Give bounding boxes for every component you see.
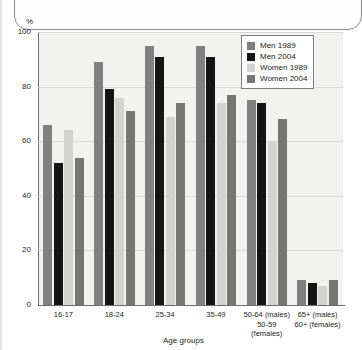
bar (176, 103, 185, 305)
bar (166, 117, 175, 305)
x-axis-line (38, 305, 345, 306)
legend-item: Women 1989 (247, 62, 307, 73)
legend-swatch-icon (247, 75, 255, 83)
legend-label: Men 2004 (260, 52, 296, 61)
legend-item: Men 2004 (247, 51, 307, 62)
bar (247, 100, 256, 305)
bar (75, 158, 84, 305)
y-tick-label: 80 (1, 82, 31, 91)
bar (329, 280, 338, 305)
bar (54, 163, 63, 305)
bar (308, 283, 317, 305)
bar (297, 280, 306, 305)
bar (278, 119, 287, 305)
bar (206, 57, 215, 305)
bar-group (196, 32, 237, 305)
legend-swatch-icon (247, 53, 255, 61)
bar (257, 103, 266, 305)
legend-label: Women 1989 (260, 63, 307, 72)
bar (145, 46, 154, 305)
bar-group (145, 32, 186, 305)
legend-item: Men 1989 (247, 40, 307, 51)
y-tick-label: 0 (1, 300, 31, 309)
bar (115, 98, 124, 305)
legend-swatch-icon (247, 42, 255, 50)
x-axis-title: Age groups (0, 336, 353, 345)
x-tick-label-line: 60+ (females) (286, 320, 350, 330)
y-tick-label: 40 (1, 191, 31, 200)
bar (217, 103, 226, 305)
y-tick-label: 100 (1, 27, 31, 36)
bar (64, 130, 73, 305)
bar (227, 95, 236, 305)
bar-group (43, 32, 84, 305)
y-axis-unit-label: % (26, 17, 33, 26)
x-tick-label-line: 65+ (males) (286, 310, 350, 320)
bar (94, 62, 103, 305)
y-tick-label: 60 (1, 136, 31, 145)
bar (43, 125, 52, 305)
legend-label: Women 2004 (260, 74, 307, 83)
bar (155, 57, 164, 305)
bar (105, 89, 114, 305)
bar (126, 111, 135, 305)
legend-swatch-icon (247, 64, 255, 72)
bar (196, 46, 205, 305)
legend-label: Men 1989 (260, 41, 296, 50)
bar (268, 141, 277, 305)
x-axis-title-text: Age groups (163, 336, 204, 345)
x-tick-label: 65+ (males)60+ (females) (286, 310, 350, 329)
y-tick-label: 20 (1, 245, 31, 254)
bar-group (94, 32, 135, 305)
legend-item: Women 2004 (247, 73, 307, 84)
bar (318, 286, 327, 305)
chart-legend: Men 1989Men 2004Women 1989Women 2004 (241, 35, 314, 89)
